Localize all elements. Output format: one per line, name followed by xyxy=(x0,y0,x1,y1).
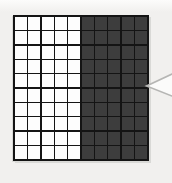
grid-cell xyxy=(28,146,40,159)
grid-cell xyxy=(42,146,54,159)
grid-cell-shaded xyxy=(82,74,94,87)
grid-cell xyxy=(15,89,27,102)
grid-cell xyxy=(28,60,40,73)
grid-cell xyxy=(42,60,54,73)
grid-cell-shaded xyxy=(108,103,120,116)
grid-cell-shaded xyxy=(82,17,94,30)
grid-cell xyxy=(15,17,27,30)
grid-cell xyxy=(55,117,67,130)
grid-cell xyxy=(55,46,67,59)
grid-cell-shaded xyxy=(95,46,107,59)
grid-cell-shaded xyxy=(122,89,134,102)
grid-cell-shaded xyxy=(122,74,134,87)
grid-cell-shaded xyxy=(135,117,147,130)
grid-cell-shaded xyxy=(135,17,147,30)
grid-cell-shaded xyxy=(108,60,120,73)
grid-cell-shaded xyxy=(108,89,120,102)
grid-cell-shaded xyxy=(95,74,107,87)
grid-cell xyxy=(28,103,40,116)
grid-cell-shaded xyxy=(135,132,147,145)
grid-cell-shaded xyxy=(122,103,134,116)
grid-cell-shaded xyxy=(122,60,134,73)
grid-cell xyxy=(15,117,27,130)
grid-cell-shaded xyxy=(135,74,147,87)
grid-cell xyxy=(68,46,80,59)
grid-cell xyxy=(15,132,27,145)
grid-cell-shaded xyxy=(95,89,107,102)
grid-cell xyxy=(55,74,67,87)
grid-cell xyxy=(55,132,67,145)
grid-cell xyxy=(28,132,40,145)
grid-cell-shaded xyxy=(108,146,120,159)
grid-cell-shaded xyxy=(82,60,94,73)
grid-cell-shaded xyxy=(82,117,94,130)
grid-cell xyxy=(55,60,67,73)
grid-cell xyxy=(68,146,80,159)
grid-cell xyxy=(55,31,67,44)
grid-cell-shaded xyxy=(108,31,120,44)
grid-cell xyxy=(42,117,54,130)
grid-cell xyxy=(28,31,40,44)
grid-cell-shaded xyxy=(95,17,107,30)
grid-cell-shaded xyxy=(95,60,107,73)
grid-cell xyxy=(68,17,80,30)
grid-cell xyxy=(28,74,40,87)
grid-cell xyxy=(42,46,54,59)
grid-cell xyxy=(42,17,54,30)
grid-cell-shaded xyxy=(82,31,94,44)
grid-cell-shaded xyxy=(95,31,107,44)
grid-cell-shaded xyxy=(122,46,134,59)
grid-cell-shaded xyxy=(108,74,120,87)
grid-cell-shaded xyxy=(135,46,147,59)
grid-cell xyxy=(55,103,67,116)
grid-cell xyxy=(42,31,54,44)
grid-cell xyxy=(28,17,40,30)
grid-cell-shaded xyxy=(82,89,94,102)
grid-cell xyxy=(55,146,67,159)
grid-cell-shaded xyxy=(122,17,134,30)
grid-cell xyxy=(15,74,27,87)
grid-cell xyxy=(68,117,80,130)
grid-cell xyxy=(68,103,80,116)
grid-cell-shaded xyxy=(135,60,147,73)
grid-cell-shaded xyxy=(108,17,120,30)
figure-canvas xyxy=(0,0,172,183)
grid-cell-shaded xyxy=(82,46,94,59)
grid-cell-shaded xyxy=(122,146,134,159)
grid-cell xyxy=(15,60,27,73)
grid-cell xyxy=(68,60,80,73)
grid-cell xyxy=(42,103,54,116)
grid-cell xyxy=(15,103,27,116)
grid-cell xyxy=(68,31,80,44)
grid-cell xyxy=(28,46,40,59)
grid-cell-shaded xyxy=(108,46,120,59)
grid-cell-shaded xyxy=(122,117,134,130)
grid-cell xyxy=(68,74,80,87)
grid-cell xyxy=(42,74,54,87)
grid-cell xyxy=(28,117,40,130)
grid-cell xyxy=(42,132,54,145)
grid-cell xyxy=(15,31,27,44)
grid-cell-shaded xyxy=(135,103,147,116)
hundred-grid xyxy=(13,15,149,161)
grid-cell-shaded xyxy=(95,132,107,145)
grid-cell-shaded xyxy=(82,132,94,145)
grid-cell-shaded xyxy=(122,31,134,44)
grid-cell xyxy=(42,89,54,102)
grid-cell xyxy=(68,89,80,102)
grid-cell xyxy=(28,89,40,102)
grid-cell-shaded xyxy=(95,146,107,159)
grid-cell xyxy=(55,17,67,30)
grid-cell-shaded xyxy=(82,103,94,116)
grid-cell-shaded xyxy=(95,117,107,130)
grid-cell-shaded xyxy=(135,146,147,159)
grid-cell-shaded xyxy=(135,31,147,44)
grid-cell xyxy=(55,89,67,102)
grid-cell-shaded xyxy=(108,132,120,145)
grid-cell-shaded xyxy=(95,103,107,116)
grid-cell-shaded xyxy=(108,117,120,130)
grid-cell-shaded xyxy=(135,89,147,102)
grid-cell-shaded xyxy=(82,146,94,159)
grid-cell xyxy=(68,132,80,145)
grid-cell xyxy=(15,46,27,59)
